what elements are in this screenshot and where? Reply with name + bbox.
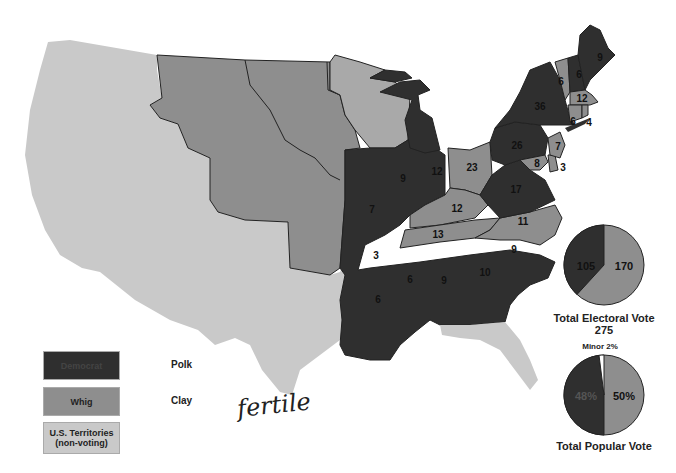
label-tennessee: 13 <box>432 229 444 240</box>
label-new-hampshire: 6 <box>576 69 582 80</box>
label-virginia: 17 <box>510 184 522 195</box>
handwritten-text: fertile <box>235 387 312 423</box>
electoral-vote-title: Total Electoral Vote 275 <box>539 312 669 336</box>
legend-whig-label: Whig <box>71 397 93 407</box>
label-vermont: 6 <box>558 76 564 87</box>
popular-vote-pie: 48% 50% <box>564 355 644 435</box>
legend-democrat-label: Democrat <box>61 361 103 371</box>
electoral-pie-democrat-label: 105 <box>577 260 595 272</box>
electoral-vote-total: 275 <box>539 324 669 336</box>
electoral-vote-title-text: Total Electoral Vote <box>539 312 669 324</box>
label-pennsylvania: 26 <box>511 140 523 151</box>
label-ohio: 23 <box>466 162 478 173</box>
legend-territories-label: U.S. Territories (non-voting) <box>44 428 119 448</box>
label-south-carolina: 9 <box>511 244 517 255</box>
label-kentucky: 12 <box>451 203 463 214</box>
label-new-jersey: 7 <box>555 141 561 152</box>
handwritten-annotation: fertile <box>235 385 325 425</box>
popular-vote-title: Total Popular Vote <box>539 440 669 452</box>
legend-whig-swatch: Whig <box>43 387 120 416</box>
popular-minor-label: Minor 2% <box>570 342 630 351</box>
label-north-carolina: 11 <box>518 216 529 227</box>
label-mississippi: 6 <box>407 274 413 285</box>
legend-territories-swatch: U.S. Territories (non-voting) <box>43 422 120 454</box>
label-maine: 9 <box>597 52 603 63</box>
electoral-vote-pie: 105 170 <box>564 225 644 305</box>
label-indiana: 12 <box>431 166 443 177</box>
label-massachusetts: 12 <box>576 93 588 104</box>
label-illinois: 9 <box>400 173 406 184</box>
label-delaware: 3 <box>560 162 566 173</box>
label-connecticut: 6 <box>570 116 576 127</box>
popular-pie-whig-label: 50% <box>613 390 635 402</box>
label-louisiana: 6 <box>375 294 381 305</box>
florida-territory <box>440 322 538 390</box>
legend-whig-candidate: Clay <box>171 395 192 406</box>
state-delaware <box>548 155 558 172</box>
popular-pie-democrat-label: 48% <box>575 390 597 402</box>
label-arkansas: 3 <box>373 250 379 261</box>
label-rhode-island: 4 <box>586 117 592 128</box>
legend-democrat-candidate: Polk <box>171 359 192 370</box>
label-alabama: 9 <box>441 275 447 286</box>
electoral-pie-whig-label: 170 <box>615 260 633 272</box>
legend-democrat-swatch: Democrat <box>43 351 120 380</box>
label-new-york: 36 <box>534 101 546 112</box>
label-maryland: 8 <box>534 158 540 169</box>
label-georgia: 10 <box>479 267 491 278</box>
label-missouri: 7 <box>369 204 375 215</box>
